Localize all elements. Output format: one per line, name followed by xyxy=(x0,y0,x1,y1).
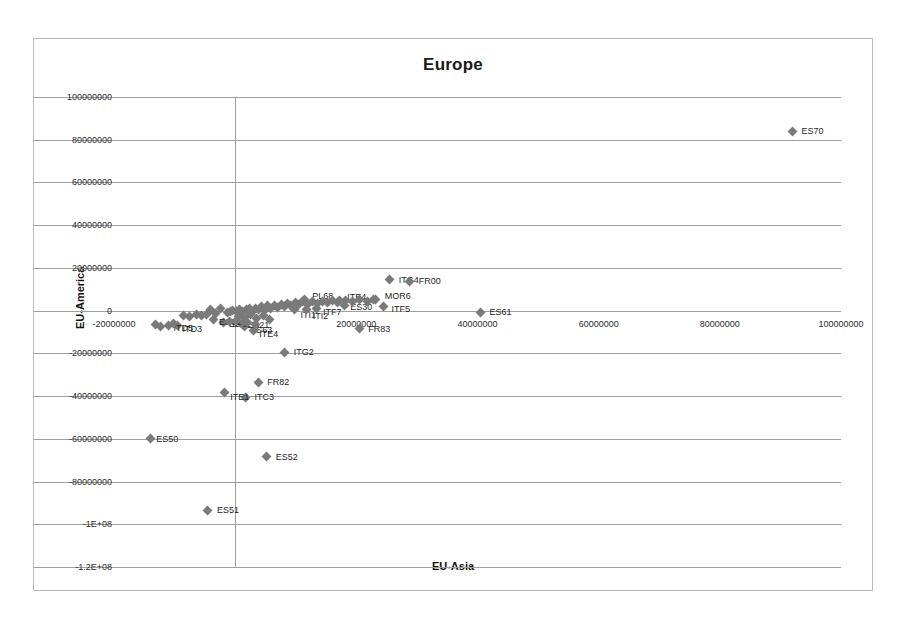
data-point[interactable] xyxy=(476,307,486,317)
y-axis-tick-label: -1.2E+08 xyxy=(75,562,112,572)
data-point-label: ES51 xyxy=(217,505,239,515)
data-point-label: FR00 xyxy=(419,276,441,286)
data-point[interactable] xyxy=(253,377,263,387)
plot-area: 1000000008000000060000000400000002000000… xyxy=(114,97,841,567)
data-point-label: ES52 xyxy=(276,452,298,462)
data-point[interactable] xyxy=(262,452,272,462)
y-gridline xyxy=(34,225,841,226)
data-point-label: ITG2 xyxy=(294,347,314,357)
data-point-label: ITI2 xyxy=(313,311,329,321)
data-point-label: ES61 xyxy=(490,307,512,317)
data-point-label: FR83 xyxy=(368,324,390,334)
data-point-label: ITF5 xyxy=(392,304,411,314)
y-axis-tick-label: 20000000 xyxy=(72,263,112,273)
y-gridline xyxy=(34,97,841,98)
data-point[interactable] xyxy=(379,301,389,311)
data-point-label: ITC3 xyxy=(254,392,274,402)
chart-title: Europe xyxy=(34,55,872,75)
x-axis-tick-label: 100000000 xyxy=(818,319,863,329)
data-point[interactable] xyxy=(385,275,395,285)
data-point[interactable] xyxy=(203,505,213,515)
data-point-label: FR82 xyxy=(267,377,289,387)
y-axis-tick-label: -40000000 xyxy=(69,391,112,401)
y-axis-line xyxy=(235,97,236,567)
y-gridline xyxy=(34,567,841,568)
y-axis-tick-label: -80000000 xyxy=(69,477,112,487)
x-axis-tick-label: 60000000 xyxy=(579,319,619,329)
y-gridline xyxy=(34,439,841,440)
y-gridline xyxy=(34,311,841,312)
y-axis-tick-label: -60000000 xyxy=(69,434,112,444)
y-gridline xyxy=(34,482,841,483)
data-point[interactable] xyxy=(280,347,290,357)
y-axis-tick-label: 40000000 xyxy=(72,220,112,230)
y-gridline xyxy=(34,396,841,397)
x-axis-tick-label: 80000000 xyxy=(700,319,740,329)
x-axis-tick-label: 40000000 xyxy=(457,319,497,329)
y-gridline xyxy=(34,140,841,141)
x-axis-tick-label: -20000000 xyxy=(92,319,135,329)
y-axis-tick-label: 0 xyxy=(107,306,112,316)
data-point-label: ES70 xyxy=(802,126,824,136)
chart-frame: Europe EU-America EU-Asia 10000000080000… xyxy=(33,38,873,591)
y-axis-tick-label: 100000000 xyxy=(67,92,112,102)
data-point-label: ITE4 xyxy=(259,329,278,339)
data-point-label: MOR6 xyxy=(385,291,411,301)
data-point-label: ITE1 xyxy=(230,392,249,402)
y-axis-tick-label: -20000000 xyxy=(69,348,112,358)
y-axis-title: EU-America xyxy=(74,267,86,329)
y-axis-tick-label: 60000000 xyxy=(72,177,112,187)
data-point-label: ES50 xyxy=(156,434,178,444)
y-axis-tick-label: -1E+08 xyxy=(83,519,112,529)
y-gridline xyxy=(34,182,841,183)
data-point[interactable] xyxy=(788,126,798,136)
y-gridline xyxy=(34,353,841,354)
y-gridline xyxy=(34,524,841,525)
y-gridline xyxy=(34,268,841,269)
y-axis-tick-label: 80000000 xyxy=(72,135,112,145)
data-point[interactable] xyxy=(145,434,155,444)
